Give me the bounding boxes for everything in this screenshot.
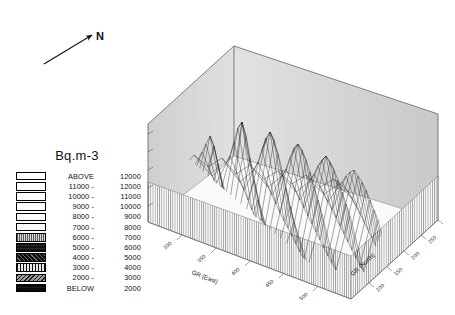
legend-row: ABOVE12000 xyxy=(16,171,148,181)
legend-lower-bound: BELOW xyxy=(46,284,99,293)
legend-row: 9000 -10000 xyxy=(16,202,148,212)
x-tick-1: 350 xyxy=(196,253,207,263)
legend-lower-bound: ABOVE xyxy=(46,172,99,181)
legend-swatch xyxy=(16,182,46,191)
legend-upper-bound: 9000 xyxy=(99,212,141,221)
legend-upper-bound: 10000 xyxy=(99,202,141,211)
x-tick-4: 500 xyxy=(298,291,309,301)
legend-swatch xyxy=(16,202,46,211)
x-axis-label: GR (East) xyxy=(191,268,219,284)
surface-plot-svg: 12500 10000 7500 5000 2500 Vol'n Rn (Bq.… xyxy=(146,24,446,309)
y-tick-0: 100 xyxy=(375,282,386,292)
legend-swatch xyxy=(16,172,46,181)
legend-row: 6000 -7000 xyxy=(16,232,148,242)
legend-swatch xyxy=(16,223,46,232)
y-tick-2: 200 xyxy=(410,250,421,260)
legend-row: 10000 -11000 xyxy=(16,191,148,201)
legend-lower-bound: 6000 - xyxy=(46,233,99,242)
legend-lower-bound: 4000 - xyxy=(46,253,99,262)
legend-row: BELOW2000 xyxy=(16,283,148,293)
legend-upper-bound: 6000 xyxy=(99,243,141,252)
legend-swatch xyxy=(16,274,46,283)
legend-swatch xyxy=(16,243,46,252)
legend-row: 3000 -4000 xyxy=(16,263,148,273)
legend-row: 11000 -12000 xyxy=(16,181,148,191)
legend-lower-bound: 9000 - xyxy=(46,202,99,211)
x-tick-3: 450 xyxy=(264,278,275,288)
legend: Bq.m-3 ABOVE1200011000 -1200010000 -1100… xyxy=(16,148,148,293)
legend-row: 2000 -3000 xyxy=(16,273,148,283)
legend-swatch xyxy=(16,192,46,201)
legend-upper-bound: 4000 xyxy=(99,263,141,272)
surface-plot: 12500 10000 7500 5000 2500 Vol'n Rn (Bq.… xyxy=(146,24,446,309)
legend-row: 7000 -8000 xyxy=(16,222,148,232)
north-label: N xyxy=(96,30,104,42)
y-tick-3: 250 xyxy=(427,234,438,244)
legend-swatch xyxy=(16,213,46,222)
legend-rows: ABOVE1200011000 -1200010000 -110009000 -… xyxy=(16,171,148,293)
legend-row: 4000 -5000 xyxy=(16,253,148,263)
legend-swatch xyxy=(16,233,46,242)
legend-row: 8000 -9000 xyxy=(16,212,148,222)
legend-lower-bound: 5000 - xyxy=(46,243,99,252)
legend-upper-bound: 12000 xyxy=(99,182,141,191)
legend-swatch xyxy=(16,263,46,272)
legend-upper-bound: 3000 xyxy=(99,273,141,282)
legend-row: 5000 -6000 xyxy=(16,242,148,252)
legend-lower-bound: 2000 - xyxy=(46,273,99,282)
legend-upper-bound: 5000 xyxy=(99,253,141,262)
legend-lower-bound: 7000 - xyxy=(46,223,99,232)
legend-upper-bound: 12000 xyxy=(99,172,141,181)
legend-swatch xyxy=(16,253,46,262)
x-tick-0: 300 xyxy=(162,240,173,250)
legend-upper-bound: 8000 xyxy=(99,223,141,232)
legend-upper-bound: 11000 xyxy=(99,192,141,201)
figure-canvas: N Bq.m-3 ABOVE1200011000 -1200010000 -11… xyxy=(0,0,455,315)
legend-upper-bound: 2000 xyxy=(99,284,141,293)
legend-lower-bound: 10000 - xyxy=(46,192,99,201)
legend-lower-bound: 8000 - xyxy=(46,212,99,221)
y-tick-1: 150 xyxy=(393,266,404,276)
legend-upper-bound: 7000 xyxy=(99,233,141,242)
x-tick-2: 400 xyxy=(230,266,241,276)
legend-lower-bound: 11000 - xyxy=(46,182,99,191)
legend-lower-bound: 3000 - xyxy=(46,263,99,272)
legend-swatch xyxy=(16,284,46,293)
legend-title: Bq.m-3 xyxy=(18,148,136,163)
